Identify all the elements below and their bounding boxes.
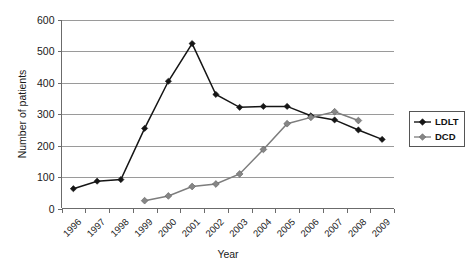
- data-point-marker: [260, 103, 266, 109]
- series-line: [145, 112, 359, 201]
- legend-label: LDLT: [435, 116, 459, 127]
- gridlines-group: [62, 21, 395, 178]
- x-tick-label: 1999: [132, 216, 155, 239]
- data-point-marker: [212, 181, 219, 188]
- x-tick-label: 2004: [251, 216, 274, 239]
- y-tick-label: 600: [37, 14, 55, 26]
- chart-canvas: 0100200300400500600 19961997199819992000…: [0, 0, 470, 271]
- y-tick-label: 200: [37, 140, 55, 152]
- x-axis-title: Year: [217, 248, 239, 260]
- legend-label: DCD: [435, 131, 456, 142]
- x-tick-label: 1998: [108, 216, 131, 239]
- x-tick-label: 2009: [369, 216, 392, 239]
- x-tick-label: 2001: [179, 216, 202, 239]
- data-point-marker: [355, 117, 362, 124]
- series-group: [70, 40, 385, 204]
- x-tick-label: 1996: [61, 216, 84, 239]
- x-tick-labels-group: 1996199719981999200020012002200320042005…: [61, 216, 392, 239]
- data-point-marker: [237, 104, 243, 110]
- data-point-marker: [284, 103, 290, 109]
- x-tick-label: 2007: [322, 216, 345, 239]
- y-tick-label: 300: [37, 108, 55, 120]
- x-tick-label: 2000: [156, 216, 179, 239]
- x-tick-label: 2006: [298, 216, 321, 239]
- data-point-marker: [213, 91, 219, 97]
- data-point-marker: [70, 186, 76, 192]
- data-point-marker: [142, 125, 148, 131]
- data-point-marker: [94, 178, 100, 184]
- y-tick-label: 100: [37, 171, 55, 183]
- series-ldlt: [70, 40, 385, 191]
- x-tick-label: 2008: [346, 216, 369, 239]
- y-tick-label: 500: [37, 45, 55, 57]
- series-line: [73, 44, 382, 189]
- data-point-marker: [332, 117, 338, 123]
- data-point-marker: [165, 193, 172, 200]
- x-tick-marks-group: [63, 209, 395, 213]
- x-tick-label: 2005: [274, 216, 297, 239]
- y-axis-title: Number of patients: [16, 70, 28, 159]
- data-point-marker: [355, 127, 361, 133]
- y-tick-label: 400: [37, 77, 55, 89]
- data-point-marker: [141, 197, 148, 204]
- x-tick-label: 2002: [203, 216, 226, 239]
- chart-legend[interactable]: LDLTDCD: [410, 112, 465, 147]
- data-point-marker: [189, 183, 196, 190]
- y-tick-label: 0: [49, 203, 55, 215]
- x-tick-label: 1997: [84, 216, 107, 239]
- data-point-marker: [379, 136, 385, 142]
- line-chart: 0100200300400500600 19961997199819992000…: [0, 0, 470, 271]
- x-tick-label: 2003: [227, 216, 250, 239]
- series-dcd: [141, 108, 362, 204]
- y-tick-labels-group: 0100200300400500600: [37, 14, 55, 215]
